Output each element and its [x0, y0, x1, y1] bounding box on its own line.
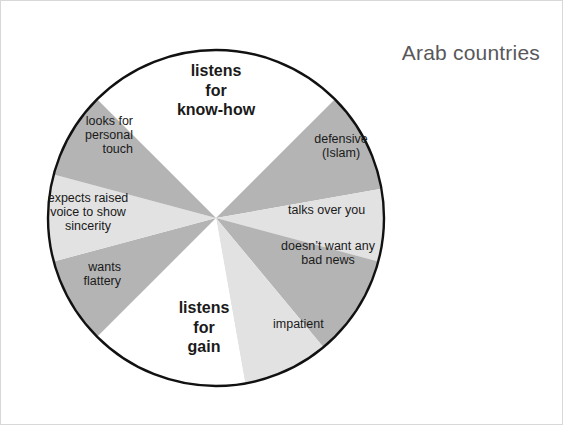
pie-label-impatient: impatient: [273, 317, 373, 331]
diagram-page: Arab countries: [0, 0, 563, 425]
pie-label-doesnt-want-any-bad-news: doesn’t want any bad news: [264, 239, 392, 267]
pie-label-listens-for-gain: listens for gain: [149, 298, 259, 357]
pie-label-wants-flattery: wants flattery: [43, 260, 121, 288]
pie-label-expects-raised-voice: expects raised voice to show sincerity: [32, 191, 144, 233]
pie-label-looks-for-personal-touch: looks for personal touch: [57, 114, 133, 156]
pie-label-listens-for-know-how: listens for know-how: [151, 61, 281, 120]
pie-label-talks-over-you: talks over you: [288, 203, 398, 217]
pie-label-defensive-islam: defensive (Islam): [293, 132, 389, 160]
